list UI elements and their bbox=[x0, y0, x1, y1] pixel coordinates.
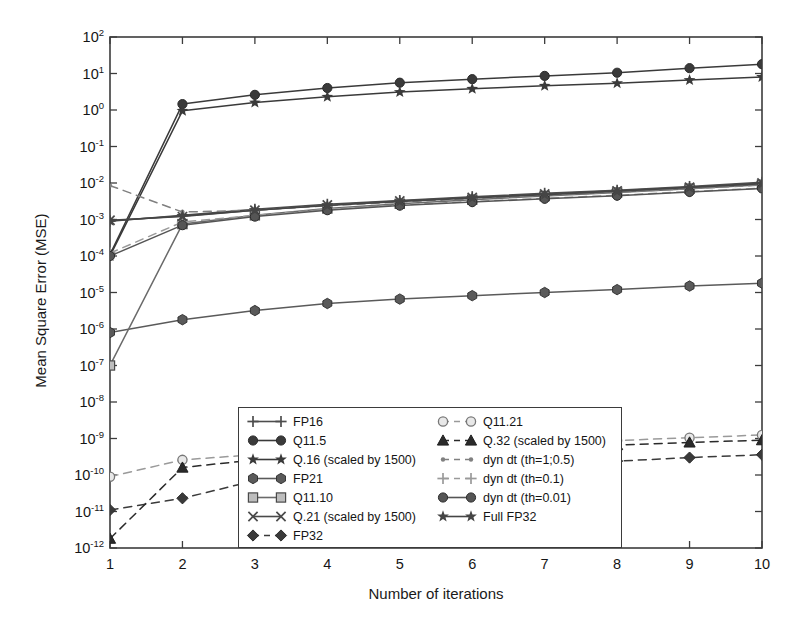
data-point-marker bbox=[247, 416, 258, 427]
legend-sample bbox=[435, 431, 479, 450]
legend-sample bbox=[245, 450, 289, 469]
x-tick-label: 2 bbox=[178, 556, 186, 572]
legend-item: FP21 bbox=[245, 469, 441, 488]
data-point-marker bbox=[437, 510, 449, 521]
legend-sample bbox=[245, 507, 289, 526]
legend-column-left: FP16Q11.5Q.16 (scaled by 1500)FP21Q11.10… bbox=[245, 412, 441, 545]
legend-sample bbox=[245, 469, 289, 488]
data-point-marker bbox=[437, 473, 448, 484]
x-tick-label: 3 bbox=[251, 556, 259, 572]
legend-item: Full FP32 bbox=[435, 507, 623, 526]
data-point-marker bbox=[275, 530, 286, 541]
data-point-marker bbox=[276, 436, 285, 445]
legend-label: dyn dt (th=1;0.5) bbox=[479, 453, 574, 467]
legend-item: Q.32 (scaled by 1500) bbox=[435, 431, 623, 450]
legend-sample bbox=[245, 488, 289, 507]
x-tick-label: 8 bbox=[613, 556, 621, 572]
legend-item: FP16 bbox=[245, 412, 441, 431]
legend-sample bbox=[435, 412, 479, 431]
legend-item: dyn dt (th=1;0.5) bbox=[435, 450, 623, 469]
legend-label: FP21 bbox=[289, 472, 323, 486]
legend-label: dyn dt (th=0.1) bbox=[479, 472, 564, 486]
legend-marker-sample bbox=[245, 450, 289, 469]
legend-label: Q11.5 bbox=[289, 434, 326, 448]
data-point-marker bbox=[248, 436, 257, 445]
legend-label: Full FP32 bbox=[479, 510, 537, 524]
legend: FP16Q11.5Q.16 (scaled by 1500)FP21Q11.10… bbox=[238, 407, 622, 548]
x-tick-label: 9 bbox=[686, 556, 694, 572]
legend-item: Q11.21 bbox=[435, 412, 623, 431]
x-tick-label: 6 bbox=[468, 556, 476, 572]
legend-marker-sample bbox=[435, 488, 479, 507]
data-point-marker bbox=[276, 493, 285, 502]
legend-marker-sample bbox=[245, 526, 289, 545]
data-point-marker bbox=[438, 493, 447, 502]
legend-item: FP32 bbox=[245, 526, 441, 545]
legend-item: dyn dt (th=0.1) bbox=[435, 469, 623, 488]
legend-sample bbox=[435, 507, 479, 526]
legend-item: Q11.10 bbox=[245, 488, 441, 507]
legend-marker-sample bbox=[435, 450, 479, 469]
x-tick-label: 5 bbox=[396, 556, 404, 572]
data-point-marker bbox=[275, 453, 287, 464]
legend-label: Q.21 (scaled by 1500) bbox=[289, 510, 416, 524]
legend-sample bbox=[245, 431, 289, 450]
legend-marker-sample bbox=[435, 431, 479, 450]
legend-column-right: Q11.21Q.32 (scaled by 1500)dyn dt (th=1;… bbox=[435, 412, 623, 526]
legend-sample bbox=[435, 488, 479, 507]
legend-sample bbox=[245, 526, 289, 545]
legend-item: Q.16 (scaled by 1500) bbox=[245, 450, 441, 469]
legend-item: dyn dt (th=0.01) bbox=[435, 488, 623, 507]
legend-label: Q11.21 bbox=[479, 415, 523, 429]
data-point-marker bbox=[277, 473, 286, 483]
data-point-marker bbox=[247, 530, 258, 541]
legend-label: Q.32 (scaled by 1500) bbox=[479, 434, 606, 448]
data-point-marker bbox=[441, 457, 445, 461]
legend-marker-sample bbox=[435, 412, 479, 431]
data-point-marker bbox=[249, 473, 258, 483]
x-tick-label: 7 bbox=[541, 556, 549, 572]
x-tick-label: 4 bbox=[323, 556, 331, 572]
legend-marker-sample bbox=[435, 507, 479, 526]
legend-marker-sample bbox=[245, 431, 289, 450]
x-tick-label: 10 bbox=[754, 556, 770, 572]
x-tick-label: 1 bbox=[106, 556, 114, 572]
mse-convergence-figure: 10210110010‐110‐210‐310‐410‐510‐610‐710‐… bbox=[0, 0, 796, 621]
legend-marker-sample bbox=[245, 507, 289, 526]
data-point-marker bbox=[247, 453, 259, 464]
legend-label: FP32 bbox=[289, 529, 323, 543]
data-point-marker bbox=[465, 473, 476, 484]
data-point-marker bbox=[465, 510, 477, 521]
data-point-marker bbox=[248, 493, 257, 502]
legend-sample bbox=[245, 412, 289, 431]
legend-marker-sample bbox=[245, 469, 289, 488]
data-point-marker bbox=[275, 416, 286, 427]
legend-sample bbox=[435, 450, 479, 469]
legend-label: FP16 bbox=[289, 415, 323, 429]
legend-marker-sample bbox=[435, 469, 479, 488]
legend-item: Q.21 (scaled by 1500) bbox=[245, 507, 441, 526]
legend-label: dyn dt (th=0.01) bbox=[479, 491, 571, 505]
legend-label: Q11.10 bbox=[289, 491, 333, 505]
legend-sample bbox=[435, 469, 479, 488]
y-axis-title: Mean Square Error (MSE) bbox=[32, 151, 49, 451]
legend-marker-sample bbox=[245, 488, 289, 507]
legend-label: Q.16 (scaled by 1500) bbox=[289, 453, 416, 467]
legend-item: Q11.5 bbox=[245, 431, 441, 450]
data-point-marker bbox=[438, 417, 447, 426]
x-axis-title: Number of iterations bbox=[110, 585, 762, 602]
data-point-marker bbox=[469, 457, 473, 461]
data-point-marker bbox=[466, 417, 475, 426]
legend-marker-sample bbox=[245, 412, 289, 431]
data-point-marker bbox=[466, 493, 475, 502]
